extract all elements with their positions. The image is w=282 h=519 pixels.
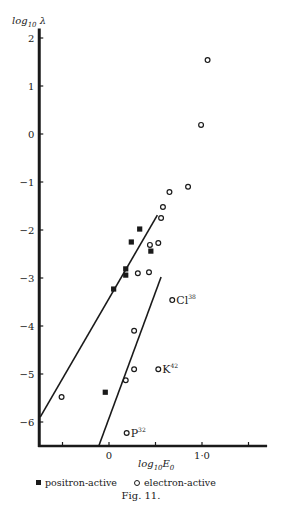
- positron-point: [123, 266, 128, 271]
- y-tick-label: −6: [20, 417, 35, 428]
- electron-point: [161, 205, 166, 210]
- y-tick-label: −1: [20, 177, 35, 188]
- y-axis-title: log10 λ: [12, 15, 46, 29]
- electron-point: [205, 58, 210, 63]
- boundary-line-right: [99, 277, 161, 446]
- legend-item-positron: positron-active: [36, 477, 117, 488]
- y-tick-label: 0: [28, 129, 34, 140]
- electron-point: [167, 190, 172, 195]
- figure-caption: Fig. 11.: [0, 490, 282, 501]
- positron-point: [103, 390, 108, 395]
- point-annotation: K42: [162, 362, 178, 376]
- boundary-lines: [40, 215, 161, 446]
- electron-point: [147, 270, 152, 275]
- y-tick-label: −4: [20, 321, 35, 332]
- scatter-chart: 210−1−2−3−4−5−601·0 Cl38K42P32 log10 λ l…: [0, 0, 282, 519]
- electron-point: [156, 367, 161, 372]
- electron-point: [124, 431, 129, 436]
- x-tick-label: 0: [106, 450, 112, 461]
- electron-point: [59, 395, 64, 400]
- legend-label-electron: electron-active: [144, 477, 216, 488]
- boundary-line-left: [40, 215, 157, 417]
- legend-item-electron: electron-active: [134, 477, 216, 488]
- electron-point: [123, 378, 128, 383]
- electron-point: [148, 242, 153, 247]
- axes: 210−1−2−3−4−5−601·0: [20, 28, 268, 461]
- positron-point: [111, 286, 116, 291]
- electron-point: [199, 122, 204, 127]
- y-tick-label: 1: [28, 81, 34, 92]
- electron-point: [159, 216, 164, 221]
- electron-point: [186, 184, 191, 189]
- legend: positron-active electron-active: [36, 477, 256, 491]
- y-tick-label: −5: [20, 369, 35, 380]
- electron-point: [132, 328, 137, 333]
- open-circle-icon: [134, 480, 140, 486]
- data-points: Cl38K42P32: [59, 58, 210, 440]
- axis-labels: log10 λ log10E0: [12, 15, 175, 472]
- x-axis-title: log10E0: [138, 458, 175, 472]
- electron-point: [132, 367, 137, 372]
- legend-label-positron: positron-active: [45, 477, 117, 488]
- point-annotation: Cl38: [176, 293, 196, 307]
- positron-point: [123, 273, 128, 278]
- y-tick-label: −3: [20, 273, 35, 284]
- positron-point: [137, 226, 142, 231]
- electron-point: [170, 298, 175, 303]
- positron-point: [148, 249, 153, 254]
- x-tick-label: 1·0: [194, 450, 210, 461]
- filled-square-icon: [36, 480, 41, 485]
- point-annotation: P32: [131, 426, 146, 440]
- electron-point: [156, 241, 161, 246]
- positron-point: [129, 239, 134, 244]
- y-tick-label: 2: [28, 33, 34, 44]
- y-tick-label: −2: [20, 225, 35, 236]
- electron-point: [135, 271, 140, 276]
